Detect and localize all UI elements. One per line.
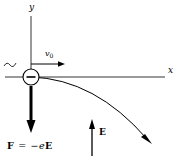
tilde-mark-icon: [4, 63, 16, 67]
velocity-arrowhead-icon: [58, 61, 65, 67]
physics-diagram-electron-deflection: y x v0 E F=−eE: [0, 0, 179, 161]
force-equals-sign: =: [18, 140, 26, 151]
trajectory-curve: [31, 77, 147, 139]
diagram-canvas: [0, 0, 179, 161]
velocity-label: v0: [45, 50, 53, 58]
y-axis-label: y: [29, 3, 34, 12]
force-symbol-E: E: [45, 140, 53, 151]
velocity-subscript: 0: [50, 52, 54, 59]
force-symbol-F: F: [7, 140, 14, 151]
efield-label: E: [99, 128, 106, 137]
velocity-symbol: v: [45, 49, 50, 58]
force-minus-sign: −: [31, 140, 39, 151]
force-equation-label: F=−eE: [7, 141, 53, 151]
efield-arrowhead-icon: [89, 119, 95, 129]
x-axis-label: x: [168, 66, 173, 75]
trajectory-arrowhead-icon: [141, 134, 152, 144]
force-arrowhead-icon: [27, 120, 36, 133]
